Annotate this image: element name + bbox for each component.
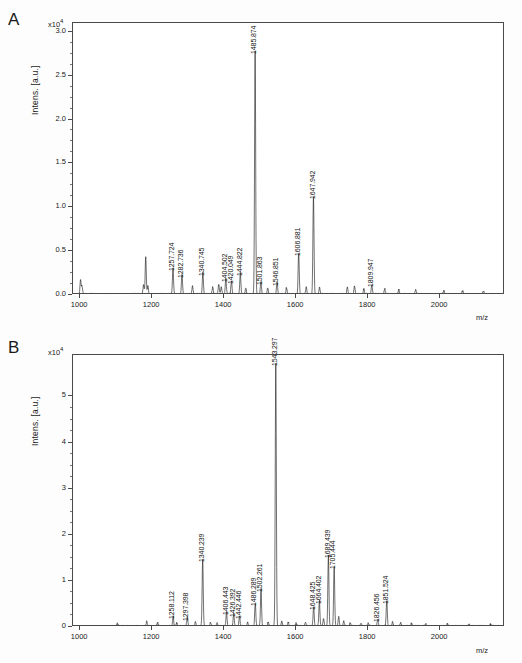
panel-a: A Intens. [a.u.] x104 m/z 0.00.51.01.52.… [0, 0, 522, 330]
panel-b: B Intens. [a.u.] x104 m/z 01234510001200… [0, 328, 522, 663]
y-axis-minor-tick [70, 151, 72, 152]
x-axis-tick-label: 2000 [431, 300, 448, 309]
y-axis-tick-label: 4 [36, 437, 66, 446]
peak-label: 1258.112 [168, 591, 175, 619]
y-axis-tick-label: 1.0 [36, 201, 66, 210]
x-axis-tick [367, 626, 368, 630]
y-axis-minor-tick [70, 603, 72, 604]
x-axis-tick-label: 1200 [143, 632, 160, 641]
y-axis-tick-label: 0.0 [36, 289, 66, 298]
y-axis-minor-tick [70, 261, 72, 262]
y-axis-minor-tick [70, 64, 72, 65]
y-axis-tick [68, 580, 72, 581]
y-axis-minor-tick [70, 407, 72, 408]
y-axis-tick-label: 2.5 [36, 70, 66, 79]
x-axis-tick [223, 626, 224, 630]
x-axis-tick [295, 626, 296, 630]
y-axis-minor-tick [70, 53, 72, 54]
x-axis-tick-label: 1600 [287, 300, 304, 309]
x-axis-tick-label: 1600 [287, 632, 304, 641]
x-axis-tick-label: 1800 [359, 632, 376, 641]
y-axis-minor-tick [70, 419, 72, 420]
y-axis-tick [68, 534, 72, 535]
y-axis-minor-tick [70, 568, 72, 569]
peak-label: 1826.456 [373, 594, 380, 622]
x-axis-tick-label: 1200 [143, 300, 160, 309]
y-axis-minor-tick [70, 129, 72, 130]
peak-label: 1257.724 [168, 242, 175, 270]
peak-label: 1502.261 [256, 564, 263, 592]
x-axis-tick [223, 294, 224, 298]
peak-label: 1406.443 [222, 587, 229, 615]
peak-label: 1442.446 [235, 590, 242, 618]
spectrum-trace [73, 355, 504, 626]
y-axis-minor-tick [70, 511, 72, 512]
peak-label: 1705.444 [329, 541, 336, 569]
y-axis-minor-tick [70, 140, 72, 141]
panel-b-letter: B [8, 338, 19, 358]
y-axis-tick [68, 206, 72, 207]
y-axis-minor-tick [70, 283, 72, 284]
spectrum-trace [73, 23, 504, 294]
y-axis-minor-tick [70, 86, 72, 87]
x-axis-tick [79, 626, 80, 630]
panel-b-plot-area [72, 354, 504, 626]
x-axis-tick [439, 294, 440, 298]
x-axis-tick [295, 294, 296, 298]
peak-label: 1543.297 [271, 338, 278, 366]
panel-b-y-exponent: x104 [48, 346, 63, 357]
mass-spectra-figure: A Intens. [a.u.] x104 m/z 0.00.51.01.52.… [0, 0, 522, 663]
peak-label: 1340.745 [198, 248, 205, 276]
y-axis-minor-tick [70, 591, 72, 592]
y-axis-minor-tick [70, 173, 72, 174]
panel-b-x-axis-title: m/z [476, 646, 488, 655]
y-axis-tick-label: 1.5 [36, 157, 66, 166]
peak-label: 1297.398 [182, 592, 189, 620]
peak-label: 1340.239 [198, 534, 205, 562]
y-axis-minor-tick [70, 272, 72, 273]
x-axis-tick-label: 1000 [71, 632, 88, 641]
panel-a-plot-area [72, 22, 504, 294]
x-axis-tick-label: 2000 [431, 632, 448, 641]
y-axis-tick-label: 2 [36, 529, 66, 538]
y-axis-minor-tick [70, 465, 72, 466]
y-axis-tick-label: 0.5 [36, 245, 66, 254]
x-axis-tick [79, 294, 80, 298]
y-axis-tick-label: 0 [36, 621, 66, 630]
y-axis-tick-label: 3.0 [36, 26, 66, 35]
y-axis-tick [68, 31, 72, 32]
y-axis-tick-label: 3 [36, 483, 66, 492]
peak-label: 1546.851 [272, 257, 279, 285]
y-axis-minor-tick [70, 217, 72, 218]
y-axis-minor-tick [70, 97, 72, 98]
y-axis-minor-tick [70, 239, 72, 240]
peak-label: 1501.863 [256, 256, 263, 284]
x-axis-tick-label: 1000 [71, 300, 88, 309]
peak-label: 1851.524 [382, 575, 389, 603]
y-axis-tick [68, 162, 72, 163]
y-axis-minor-tick [70, 476, 72, 477]
y-axis-minor-tick [70, 108, 72, 109]
peak-label: 1282.736 [177, 249, 184, 277]
y-axis-tick [68, 119, 72, 120]
y-axis-minor-tick [70, 195, 72, 196]
y-axis-tick-label: 5 [36, 390, 66, 399]
y-axis-tick [68, 294, 72, 295]
y-axis-minor-tick [70, 499, 72, 500]
y-axis-minor-tick [70, 228, 72, 229]
peak-label: 1606.881 [294, 227, 301, 255]
y-axis-tick [68, 488, 72, 489]
x-axis-tick-label: 1400 [215, 300, 232, 309]
peak-label: 1420.049 [227, 255, 234, 283]
y-axis-minor-tick [70, 522, 72, 523]
y-axis-tick [68, 75, 72, 76]
y-axis-tick [68, 626, 72, 627]
panel-a-x-axis-title: m/z [476, 313, 488, 322]
y-axis-minor-tick [70, 614, 72, 615]
y-axis-tick-label: 1 [36, 575, 66, 584]
y-axis-minor-tick [70, 557, 72, 558]
peak-label: 1664.402 [315, 575, 322, 603]
x-axis-tick [151, 626, 152, 630]
y-axis-minor-tick [70, 184, 72, 185]
y-axis-minor-tick [70, 42, 72, 43]
